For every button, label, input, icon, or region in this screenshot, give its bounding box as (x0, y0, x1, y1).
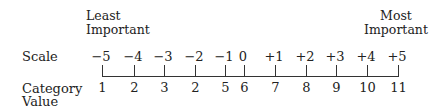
scale-value: +3 (325, 50, 344, 64)
category-value: 1 (98, 81, 106, 95)
scale-value: −2 (184, 50, 203, 64)
scale-value: −4 (123, 50, 142, 64)
category-value: 6 (240, 81, 248, 95)
scale-value: +2 (295, 50, 314, 64)
category-value: 10 (359, 81, 376, 95)
category-row-label-line2: Value (22, 95, 58, 109)
tick-mark (195, 65, 196, 77)
scale-value: +1 (264, 50, 283, 64)
tick-mark (164, 65, 165, 77)
scale-value: −3 (153, 50, 172, 64)
category-value: 7 (271, 81, 279, 95)
tick-mark (275, 65, 276, 77)
scale-row-label: Scale (22, 50, 58, 64)
tick-mark (134, 65, 135, 77)
category-value: 11 (390, 81, 407, 95)
tick-mark (225, 65, 226, 77)
scale-value: +4 (356, 50, 375, 64)
most-important-label-line1: Most (371, 9, 421, 22)
category-value: 2 (191, 81, 199, 95)
least-important-label-line2: Important (86, 23, 150, 36)
tick-mark (244, 65, 245, 77)
scale-value: −1 (214, 50, 233, 64)
scale-value: −5 (91, 50, 110, 64)
category-value: 2 (130, 81, 138, 95)
category-value: 9 (332, 81, 340, 95)
tick-mark (336, 65, 337, 77)
tick-mark (367, 65, 368, 77)
most-important-label-line2: Important (360, 23, 432, 36)
category-value: 5 (221, 81, 229, 95)
category-value: 3 (160, 81, 168, 95)
scale-value: 0 (239, 50, 247, 64)
tick-mark (306, 65, 307, 77)
tick-mark (102, 65, 103, 77)
least-important-label-line1: Least (86, 9, 121, 22)
category-value: 8 (302, 81, 310, 95)
scale-axis-line (102, 76, 399, 77)
scale-value: +5 (387, 50, 406, 64)
tick-mark (398, 65, 399, 77)
